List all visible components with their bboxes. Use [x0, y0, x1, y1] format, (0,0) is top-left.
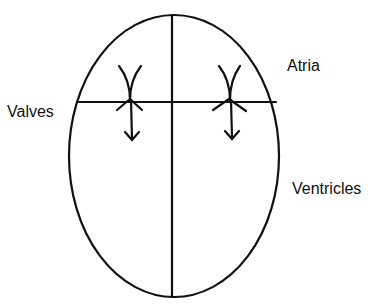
atria-label: Atria [287, 58, 320, 74]
heart-diagram [0, 0, 383, 304]
heart-outline [69, 15, 279, 297]
valves-label: Valves [7, 104, 54, 120]
ventricles-label: Ventricles [292, 181, 361, 197]
